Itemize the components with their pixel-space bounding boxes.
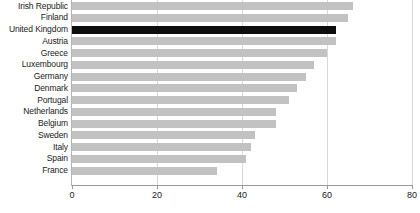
bar[interactable] <box>72 14 348 22</box>
y-axis-label-spain: Spain <box>0 154 68 163</box>
x-axis-tick <box>412 185 413 189</box>
bar[interactable] <box>72 120 276 128</box>
x-axis-tick-label: 40 <box>237 190 247 200</box>
x-axis-tick <box>327 185 328 189</box>
y-axis-label-france: France <box>0 166 68 175</box>
x-axis-tick <box>157 185 158 189</box>
gridline <box>412 0 413 186</box>
x-axis-tick-label: 20 <box>152 190 162 200</box>
x-axis-tick <box>72 185 73 189</box>
y-axis-label-sweden: Sweden <box>0 131 68 140</box>
bar[interactable] <box>72 2 353 10</box>
bar[interactable] <box>72 37 336 45</box>
y-axis-label-luxembourg: Luxembourg <box>0 60 68 69</box>
bar[interactable] <box>72 84 297 92</box>
y-axis-label-germany: Germany <box>0 72 68 81</box>
bar[interactable] <box>72 73 306 81</box>
bar[interactable] <box>72 143 251 151</box>
bar[interactable] <box>72 61 314 69</box>
y-axis-label-belgium: Belgium <box>0 119 68 128</box>
bar[interactable] <box>72 167 217 175</box>
y-axis-label-greece: Greece <box>0 49 68 58</box>
bar[interactable] <box>72 131 255 139</box>
x-axis-tick <box>242 185 243 189</box>
bar[interactable] <box>72 49 327 57</box>
y-axis-label-netherlands: Netherlands <box>0 107 68 116</box>
y-axis-label-portugal: Portugal <box>0 96 68 105</box>
bar[interactable] <box>72 108 276 116</box>
y-axis-label-united-kingdom: United Kingdom <box>0 25 68 34</box>
bar-chart: Irish RepublicFinlandUnited KingdomAustr… <box>0 0 420 213</box>
bar[interactable] <box>72 155 246 163</box>
bar[interactable] <box>72 26 336 34</box>
y-axis-label-irish-republic: Irish Republic <box>0 2 68 11</box>
x-axis-tick-label: 0 <box>69 190 74 200</box>
x-axis-tick-label: 80 <box>407 190 417 200</box>
y-axis-label-austria: Austria <box>0 37 68 46</box>
y-axis-label-denmark: Denmark <box>0 84 68 93</box>
plot-area <box>72 0 412 186</box>
bar[interactable] <box>72 96 289 104</box>
x-axis-tick-label: 60 <box>322 190 332 200</box>
y-axis-label-italy: Italy <box>0 143 68 152</box>
y-axis-label-finland: Finland <box>0 13 68 22</box>
